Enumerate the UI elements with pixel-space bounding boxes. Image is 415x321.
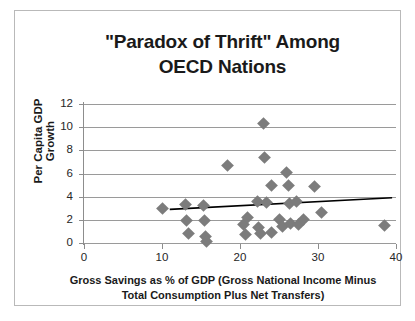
plot-area xyxy=(84,104,396,243)
chart-title-line-2: OECD Nations xyxy=(45,54,400,79)
y-tick-2 xyxy=(79,220,84,221)
y-tick-label-10: 10 xyxy=(47,121,73,132)
chart-title: "Paradox of Thrift" Among OECD Nations xyxy=(45,29,400,79)
y-tick-8 xyxy=(79,150,84,151)
y-tick-6 xyxy=(79,174,84,175)
x-tick-label-40: 40 xyxy=(381,251,411,263)
chart-screenshot: "Paradox of Thrift" Among OECD Nations P… xyxy=(0,0,415,321)
y-tick-label-8: 8 xyxy=(47,144,73,155)
x-axis-title-line-1: Gross Savings as % of GDP (Gross Nationa… xyxy=(45,273,401,288)
y-tick-12 xyxy=(79,104,84,105)
x-axis-title: Gross Savings as % of GDP (Gross Nationa… xyxy=(45,273,401,303)
y-tick-4 xyxy=(79,197,84,198)
y-tick-label-2: 2 xyxy=(47,214,73,225)
x-tick-0 xyxy=(84,244,85,249)
y-tick-10 xyxy=(79,127,84,128)
chart-frame: "Paradox of Thrift" Among OECD Nations P… xyxy=(14,10,401,306)
y-tick-label-6: 6 xyxy=(47,168,73,179)
x-tick-label-0: 0 xyxy=(69,251,99,263)
x-tick-40 xyxy=(396,244,397,249)
x-tick-30 xyxy=(318,244,319,249)
y-tick-label-4: 4 xyxy=(47,191,73,202)
x-tick-label-10: 10 xyxy=(147,251,177,263)
x-tick-label-30: 30 xyxy=(303,251,333,263)
x-tick-20 xyxy=(240,244,241,249)
x-tick-10 xyxy=(162,244,163,249)
x-tick-label-20: 20 xyxy=(225,251,255,263)
x-axis-title-line-2: Total Consumption Plus Net Transfers) xyxy=(45,288,401,303)
y-tick-label-12: 12 xyxy=(47,98,73,109)
chart-title-line-1: "Paradox of Thrift" Among xyxy=(45,29,400,54)
y-tick-label-0: 0 xyxy=(47,237,73,248)
